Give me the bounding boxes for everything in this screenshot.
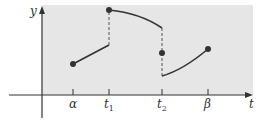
shaded-region: [42, 5, 253, 95]
point-alpha: [70, 61, 76, 67]
point-t2-value: [159, 50, 165, 56]
y-axis-label: y: [29, 4, 37, 18]
tick-label-alpha: α: [69, 97, 77, 111]
tick-label-beta: β: [203, 97, 211, 111]
piecewise-function-diagram: y t α t1 t2 β: [0, 0, 271, 122]
tick-label-t2: t2: [157, 97, 167, 113]
tick-label-t1: t1: [104, 97, 114, 113]
t-axis-label: t: [249, 97, 254, 111]
point-t1: [106, 7, 112, 13]
point-beta: [205, 46, 211, 52]
